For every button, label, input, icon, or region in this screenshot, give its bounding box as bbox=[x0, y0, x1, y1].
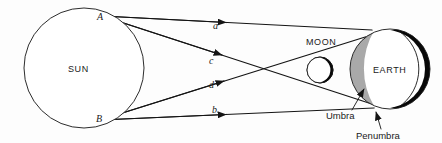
umbra-label: Umbra bbox=[326, 110, 355, 121]
ray-label-b: b bbox=[212, 104, 217, 115]
vertex-label-a: A bbox=[96, 11, 104, 22]
diagram-canvas: SUN MOON EARTH A B a c d b Umbra Penumbr… bbox=[0, 0, 442, 143]
ray-label-c: c bbox=[209, 55, 214, 66]
penumbra-leader-line bbox=[376, 112, 381, 129]
sun-label: SUN bbox=[68, 64, 89, 74]
moon-lit-mask bbox=[306, 58, 331, 83]
penumbra-label: Penumbra bbox=[356, 130, 401, 141]
eclipse-diagram-figure: SUN MOON EARTH A B a c d b Umbra Penumbr… bbox=[0, 0, 442, 143]
earth-label: EARTH bbox=[373, 65, 406, 75]
moon-label: MOON bbox=[306, 37, 336, 47]
ray-label-a: a bbox=[213, 20, 218, 31]
vertex-label-b: B bbox=[96, 113, 102, 124]
moon-body bbox=[306, 57, 339, 83]
